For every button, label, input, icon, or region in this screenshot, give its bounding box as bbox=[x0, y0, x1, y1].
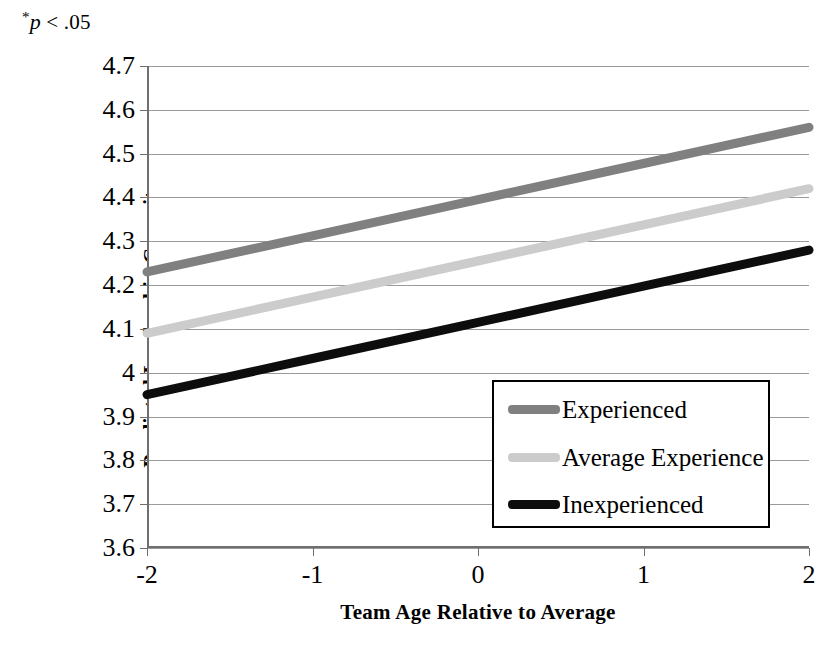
y-tick-mark bbox=[140, 197, 147, 198]
chart-legend: Experienced Average Experience Inexperie… bbox=[492, 380, 770, 528]
y-tick-label: 3.8 bbox=[103, 447, 136, 473]
x-tick-label: -1 bbox=[302, 562, 324, 588]
significance-threshold: < .05 bbox=[41, 10, 91, 34]
y-tick-label: 4.1 bbox=[103, 316, 136, 342]
series-line bbox=[147, 189, 809, 334]
legend-swatch-average-experience bbox=[508, 453, 560, 462]
legend-item-average-experience: Average Experience bbox=[508, 442, 760, 472]
y-tick-mark bbox=[140, 548, 147, 549]
y-tick-label: 4.2 bbox=[103, 272, 136, 298]
legend-swatch-inexperienced bbox=[508, 500, 560, 509]
y-tick-mark bbox=[140, 241, 147, 242]
y-tick-label: 4 bbox=[122, 360, 135, 386]
y-tick-mark bbox=[140, 154, 147, 155]
figure-container: *p < .05 Predicted Leadership Capacity T… bbox=[0, 0, 820, 647]
y-tick-label: 3.9 bbox=[103, 404, 136, 430]
legend-label-average-experience: Average Experience bbox=[562, 445, 764, 470]
x-tick-mark bbox=[644, 548, 645, 556]
series-line bbox=[147, 250, 809, 395]
y-tick-label: 4.7 bbox=[103, 53, 136, 79]
x-tick-mark bbox=[147, 548, 148, 556]
x-axis-title: Team Age Relative to Average bbox=[147, 600, 809, 625]
legend-swatch-experienced bbox=[508, 405, 560, 414]
x-tick-label: -2 bbox=[136, 562, 158, 588]
series-line bbox=[147, 127, 809, 272]
y-tick-label: 4.3 bbox=[103, 228, 136, 254]
legend-item-inexperienced: Inexperienced bbox=[508, 489, 760, 519]
legend-item-experienced: Experienced bbox=[508, 394, 760, 424]
significance-annotation: *p < .05 bbox=[22, 4, 91, 35]
y-tick-label: 4.5 bbox=[103, 141, 136, 167]
y-tick-mark bbox=[140, 504, 147, 505]
x-tick-mark bbox=[313, 548, 314, 556]
legend-label-inexperienced: Inexperienced bbox=[562, 492, 704, 517]
y-tick-mark bbox=[140, 373, 147, 374]
x-tick-label: 0 bbox=[472, 562, 485, 588]
legend-label-experienced: Experienced bbox=[562, 397, 687, 422]
x-tick-mark bbox=[478, 548, 479, 556]
y-tick-mark bbox=[140, 285, 147, 286]
x-tick-label: 2 bbox=[803, 562, 816, 588]
y-tick-mark bbox=[140, 110, 147, 111]
p-symbol: p bbox=[30, 9, 41, 34]
y-tick-mark bbox=[140, 460, 147, 461]
x-tick-mark bbox=[809, 548, 810, 556]
x-tick-label: 1 bbox=[637, 562, 650, 588]
y-tick-label: 4.6 bbox=[103, 97, 136, 123]
y-tick-label: 4.4 bbox=[103, 184, 136, 210]
y-tick-mark bbox=[140, 66, 147, 67]
y-tick-label: 3.7 bbox=[103, 491, 136, 517]
y-tick-mark bbox=[140, 417, 147, 418]
significance-asterisk: * bbox=[22, 9, 30, 25]
y-tick-label: 3.6 bbox=[103, 535, 136, 561]
